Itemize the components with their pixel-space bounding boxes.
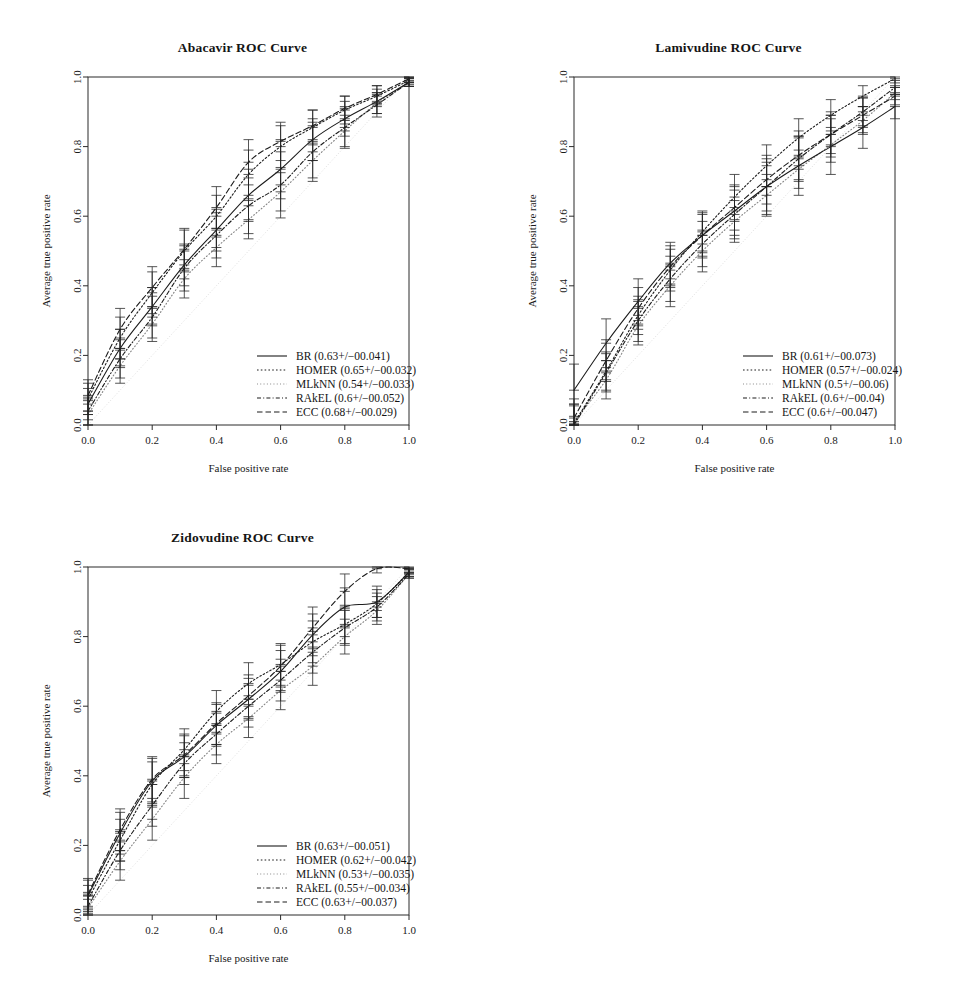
x-tick-label: 0.8	[824, 434, 838, 446]
y-tick-label: 0.8	[557, 139, 569, 153]
x-tick-label: 0.0	[81, 434, 95, 446]
y-axis-label: Average true positive rate	[40, 684, 52, 797]
x-tick-label: 0.6	[274, 434, 288, 446]
y-tick-label: 0.0	[71, 418, 83, 432]
panel-abacavir-roc: Abacavir ROC Curve 0.00.20.40.60.81.00.0…	[0, 10, 485, 510]
x-tick-label: 1.0	[402, 924, 416, 936]
legend-label-homer: HOMER (0.62+/−00.042)	[296, 854, 416, 867]
legend-label-br: BR (0.63+/−00.041)	[296, 350, 390, 363]
panel-zidovudine-roc: Zidovudine ROC Curve 0.00.20.40.60.81.00…	[0, 500, 485, 1000]
x-tick-label: 0.2	[145, 434, 159, 446]
y-tick-label: 0.2	[557, 349, 569, 363]
x-tick-label: 0.8	[338, 924, 352, 936]
y-tick-label: 0.4	[71, 278, 83, 292]
y-axis-label: Average true positive rate	[526, 194, 538, 307]
x-axis-label: False positive rate	[694, 462, 774, 474]
y-tick-label: 1.0	[557, 70, 569, 84]
x-tick-label: 0.0	[567, 434, 581, 446]
y-tick-label: 0.2	[71, 349, 83, 363]
y-tick-label: 0.4	[71, 768, 83, 782]
x-tick-label: 0.8	[338, 434, 352, 446]
y-tick-label: 0.0	[557, 418, 569, 432]
y-tick-label: 0.4	[557, 278, 569, 292]
legend-label-br: BR (0.61+/−00.073)	[782, 350, 876, 363]
legend: BR (0.63+/−00.041)HOMER (0.65+/−00.032)M…	[251, 345, 416, 419]
y-tick-label: 0.2	[71, 839, 83, 853]
legend: BR (0.61+/−00.073)HOMER (0.57+/−00.024)M…	[737, 345, 902, 419]
x-tick-label: 0.2	[631, 434, 645, 446]
plot-lamivudine: 0.00.20.40.60.81.00.00.20.40.60.81.0Fals…	[486, 10, 971, 510]
legend-label-rakel: RAkEL (0.55+/−00.034)	[296, 882, 410, 895]
x-tick-label: 0.4	[210, 434, 224, 446]
x-tick-label: 0.6	[760, 434, 774, 446]
legend-label-mlknn: MLkNN (0.54+/−00.033)	[296, 378, 414, 391]
plot-zidovudine: 0.00.20.40.60.81.00.00.20.40.60.81.0Fals…	[0, 500, 485, 1000]
x-tick-label: 1.0	[402, 434, 416, 446]
y-tick-label: 0.6	[71, 209, 83, 223]
legend-label-homer: HOMER (0.57+/−00.024)	[782, 364, 902, 377]
y-tick-label: 0.8	[71, 139, 83, 153]
x-tick-label: 0.4	[696, 434, 710, 446]
y-tick-label: 0.6	[557, 209, 569, 223]
y-tick-label: 0.8	[71, 629, 83, 643]
y-tick-label: 0.0	[71, 908, 83, 922]
legend-label-rakel: RAkEL (0.6+/−00.04)	[782, 392, 884, 405]
x-tick-label: 0.6	[274, 924, 288, 936]
legend: BR (0.63+/−00.051)HOMER (0.62+/−00.042)M…	[251, 835, 416, 909]
x-tick-label: 0.2	[145, 924, 159, 936]
legend-label-ecc: ECC (0.6+/−00.047)	[782, 406, 877, 419]
x-axis-label: False positive rate	[208, 462, 288, 474]
legend-label-br: BR (0.63+/−00.051)	[296, 840, 390, 853]
legend-label-ecc: ECC (0.68+/−00.029)	[296, 406, 397, 419]
y-tick-label: 0.6	[71, 699, 83, 713]
y-tick-label: 1.0	[71, 560, 83, 574]
legend-label-rakel: RAkEL (0.6+/−00.052)	[296, 392, 404, 405]
x-axis-label: False positive rate	[208, 952, 288, 964]
x-tick-label: 0.4	[210, 924, 224, 936]
x-tick-label: 1.0	[888, 434, 902, 446]
legend-label-mlknn: MLkNN (0.53+/−00.035)	[296, 868, 414, 881]
x-tick-label: 0.0	[81, 924, 95, 936]
y-tick-label: 1.0	[71, 70, 83, 84]
panel-lamivudine-roc: Lamivudine ROC Curve 0.00.20.40.60.81.00…	[486, 10, 971, 510]
legend-label-homer: HOMER (0.65+/−00.032)	[296, 364, 416, 377]
plot-abacavir: 0.00.20.40.60.81.00.00.20.40.60.81.0Fals…	[0, 10, 485, 510]
y-axis-label: Average true positive rate	[40, 194, 52, 307]
legend-label-mlknn: MLkNN (0.5+/−00.06)	[782, 378, 889, 391]
legend-label-ecc: ECC (0.63+/−00.037)	[296, 896, 397, 909]
